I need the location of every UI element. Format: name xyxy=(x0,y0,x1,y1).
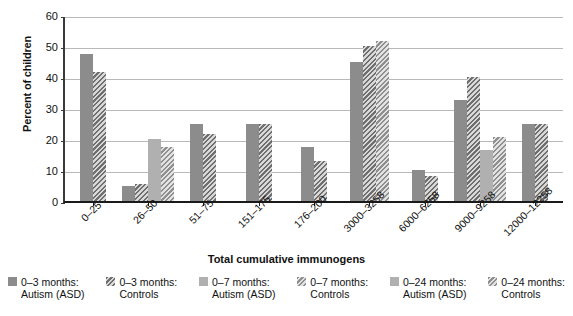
legend-label: 0–7 months:Autism (ASD) xyxy=(212,276,276,300)
bar xyxy=(363,46,376,201)
y-axis-tick-label: 0 xyxy=(18,196,58,208)
x-axis-label-cell: 3000–3258 xyxy=(341,205,397,253)
legend-item[interactable]: 0–3 months:Controls xyxy=(106,276,177,300)
y-axis-tick-label: 30 xyxy=(18,103,58,115)
legend-swatch-icon xyxy=(488,277,497,286)
y-axis-tick-label: 40 xyxy=(18,72,58,84)
legend-item[interactable]: 0–24 months:Controls xyxy=(488,276,565,300)
legend-item[interactable]: 0–7 months:Autism (ASD) xyxy=(199,276,276,300)
bar xyxy=(203,134,216,201)
bar xyxy=(122,186,135,202)
legend-swatch-icon xyxy=(8,277,17,286)
bar-group xyxy=(176,17,231,201)
bar-chart: Percent of children 0102030405060 0–2526… xyxy=(0,0,573,316)
y-axis-tick-label: 10 xyxy=(18,165,58,177)
bar xyxy=(259,124,272,202)
bar xyxy=(190,124,203,202)
bar xyxy=(93,72,106,201)
x-axis-label-cell: 0–25 xyxy=(63,205,119,253)
legend-label-line1: 0–3 months: xyxy=(21,276,79,288)
legend-label-line2: Controls xyxy=(310,288,368,300)
bar xyxy=(376,41,389,201)
legend-label-line1: 0–24 months: xyxy=(403,276,467,288)
x-axis-label-cell: 26–50 xyxy=(119,205,175,253)
legend-label-line1: 0–24 months: xyxy=(501,276,565,288)
bar-group xyxy=(452,17,507,201)
bar xyxy=(161,147,174,201)
y-axis-tick-label: 60 xyxy=(18,10,58,22)
bar xyxy=(493,137,506,201)
bar-groups xyxy=(65,17,563,201)
legend-label: 0–7 months:Controls xyxy=(310,276,368,300)
bar xyxy=(467,77,480,201)
legend-label: 0–3 months:Controls xyxy=(119,276,177,300)
bar-group xyxy=(508,17,563,201)
x-axis-title: Total cumulative immunogens xyxy=(0,253,573,265)
bar xyxy=(412,170,425,201)
x-axis-label-cell: 151–175 xyxy=(230,205,286,253)
bar xyxy=(148,139,161,201)
legend-item[interactable]: 0–3 months:Autism (ASD) xyxy=(8,276,85,300)
y-axis-title: Percent of children xyxy=(21,14,33,154)
x-axis-label-cell: 9000–9258 xyxy=(452,205,508,253)
x-axis-label-cell: 6000–6258 xyxy=(396,205,452,253)
plot-area: 0102030405060 xyxy=(63,17,563,203)
legend-swatch-icon xyxy=(106,277,115,286)
bar xyxy=(301,147,314,201)
bar xyxy=(246,124,259,202)
bar-group xyxy=(231,17,286,201)
x-axis-label-cell: 51–75 xyxy=(174,205,230,253)
bar-group xyxy=(65,17,120,201)
bar xyxy=(454,100,467,201)
bar xyxy=(522,124,535,202)
bar xyxy=(350,62,363,202)
bar-group xyxy=(397,17,452,201)
legend-label-line2: Autism (ASD) xyxy=(212,288,276,300)
x-axis-tick-labels: 0–2526–5051–75151–175176–2003000–3258600… xyxy=(63,205,563,253)
bar xyxy=(135,184,148,201)
legend-label-line1: 0–7 months: xyxy=(212,276,270,288)
legend-label: 0–3 months:Autism (ASD) xyxy=(21,276,85,300)
legend-item[interactable]: 0–24 months:Autism (ASD) xyxy=(390,276,467,300)
legend-label-line2: Autism (ASD) xyxy=(403,288,467,300)
bar xyxy=(80,54,93,201)
legend-swatch-icon xyxy=(390,277,399,286)
legend-label-line1: 0–7 months: xyxy=(310,276,368,288)
legend-label: 0–24 months:Autism (ASD) xyxy=(403,276,467,300)
chart-legend: 0–3 months:Autism (ASD)0–3 months:Contro… xyxy=(8,276,565,300)
legend-swatch-icon xyxy=(297,277,306,286)
legend-label-line2: Controls xyxy=(501,288,565,300)
y-axis-tick-label: 20 xyxy=(18,134,58,146)
legend-swatch-icon xyxy=(199,277,208,286)
x-axis-label-cell: 12000–12258 xyxy=(508,205,564,253)
legend-label-line1: 0–3 months: xyxy=(119,276,177,288)
legend-item[interactable]: 0–7 months:Controls xyxy=(297,276,368,300)
bar-group xyxy=(286,17,341,201)
bar-group xyxy=(120,17,175,201)
legend-label: 0–24 months:Controls xyxy=(501,276,565,300)
y-axis-tick-mark xyxy=(61,203,65,204)
x-axis-label-cell: 176–200 xyxy=(285,205,341,253)
legend-label-line2: Controls xyxy=(119,288,177,300)
y-axis-tick-label: 50 xyxy=(18,41,58,53)
legend-label-line2: Autism (ASD) xyxy=(21,288,85,300)
bar-group xyxy=(342,17,397,201)
